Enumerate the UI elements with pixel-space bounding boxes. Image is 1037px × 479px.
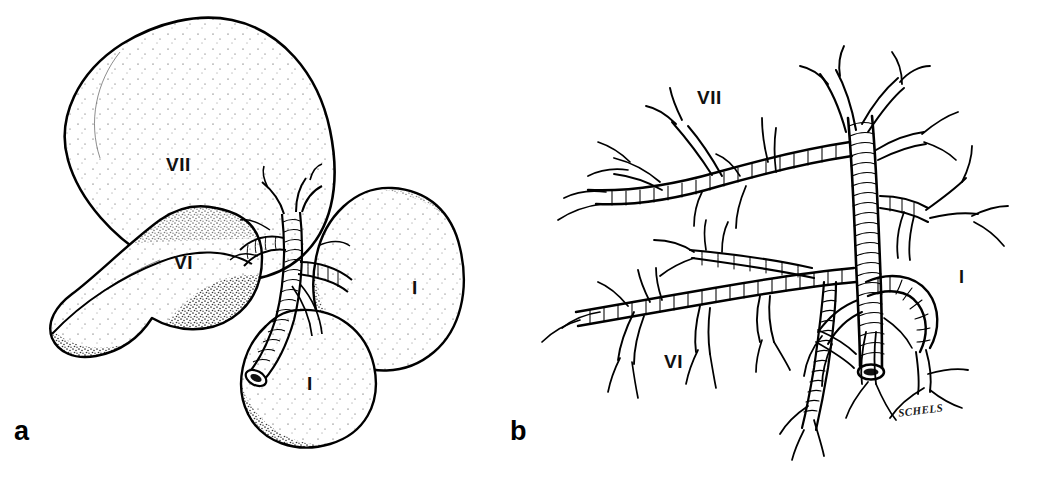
segment-label-i-lateral-panel-a: I [412, 278, 418, 297]
panel-letter-a: a [14, 418, 29, 445]
panel-a-artwork [0, 0, 510, 479]
segment-label-vii-panel-a: VII [166, 155, 191, 174]
panel-a: VII VI I I [0, 0, 510, 479]
segment-vii-upper-right-branches [800, 46, 958, 160]
segment-label-vi-panel-b: VI [664, 352, 683, 371]
segment-vii-bronchus [558, 88, 852, 228]
panel-letter-b: b [510, 418, 527, 445]
main-bronchus-trunk [848, 116, 884, 380]
figure-root: VII VI I I [0, 0, 1037, 479]
segment-label-vii-panel-b: VII [697, 88, 722, 107]
segment-vi-bronchus [542, 220, 856, 460]
segment-label-i-panel-b: I [959, 268, 965, 286]
panel-b-artwork [510, 0, 1037, 479]
panel-b: VII VI I SCHELS [510, 0, 1037, 479]
bronchial-tree [542, 46, 1008, 460]
segment-i-bronchus-upper [880, 146, 1008, 260]
segment-label-vi-panel-a: VI [174, 253, 193, 272]
segment-label-i-inferior-panel-a: I [307, 374, 313, 393]
